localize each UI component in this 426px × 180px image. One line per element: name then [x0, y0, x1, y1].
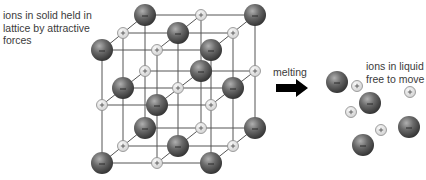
anion-icon — [167, 135, 189, 157]
cation-icon — [206, 100, 217, 111]
anion-icon — [222, 77, 244, 99]
cation-icon — [140, 66, 151, 77]
anion-icon — [190, 60, 212, 82]
solid-caption-line-1: ions in solid held in — [3, 9, 92, 22]
liquid-caption-line-2: free to move — [366, 73, 424, 86]
anion-icon — [91, 152, 113, 174]
anion-icon — [244, 4, 266, 26]
liquid-caption: ions in liquid free to move — [366, 60, 424, 85]
cation-icon — [152, 45, 163, 56]
melting-label: melting — [273, 66, 307, 79]
cation-icon — [196, 123, 207, 134]
anion-icon — [146, 94, 168, 116]
cation-icon — [228, 28, 239, 39]
process-label: melting — [273, 66, 307, 79]
solid-caption: ions in solid held in lattice by attract… — [3, 9, 92, 47]
cation-icon — [376, 125, 387, 136]
cation-icon — [228, 141, 239, 152]
cation-icon — [152, 158, 163, 169]
liquid-caption-line-1: ions in liquid — [366, 60, 424, 73]
lattice-ions — [91, 4, 266, 174]
anion-icon — [134, 4, 156, 26]
cation-icon — [405, 87, 416, 98]
solid-caption-line-3: forces — [3, 34, 92, 47]
anion-icon — [200, 39, 222, 61]
anion-icon — [398, 116, 420, 138]
cation-icon — [346, 107, 357, 118]
melting-arrow-icon — [276, 79, 308, 97]
anion-icon — [200, 152, 222, 174]
cation-icon — [173, 83, 184, 94]
anion-icon — [326, 71, 348, 93]
cation-icon — [250, 66, 261, 77]
anion-icon — [134, 117, 156, 139]
cation-icon — [118, 28, 129, 39]
cation-icon — [352, 81, 363, 92]
anion-icon — [352, 134, 374, 156]
cation-icon — [118, 141, 129, 152]
anion-icon — [244, 117, 266, 139]
anion-icon — [91, 39, 113, 61]
anion-icon — [167, 22, 189, 44]
solid-caption-line-2: lattice by attractive — [3, 22, 92, 35]
cation-icon — [97, 100, 108, 111]
cation-icon — [196, 10, 207, 21]
anion-icon — [359, 92, 381, 114]
anion-icon — [112, 77, 134, 99]
